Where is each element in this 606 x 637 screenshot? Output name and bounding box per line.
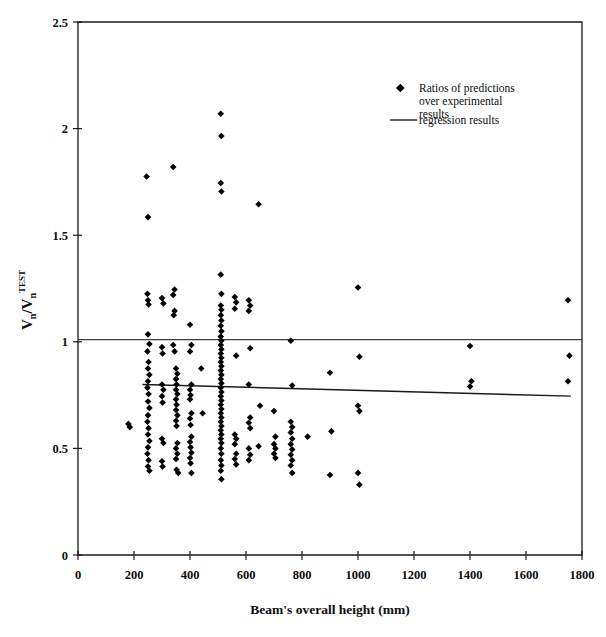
legend-label-line1: Ratios of predictions [419,82,515,95]
data-point-marker [272,433,279,440]
data-point-marker [145,431,152,438]
data-point-marker [247,425,254,432]
data-point-marker [218,450,225,457]
y-tick-label: 0 [62,549,68,563]
data-point-marker [146,438,153,445]
data-point-marker [218,188,225,195]
legend-label-line2: over experimental [419,95,502,108]
y-axis-denominator-superscript: TEST [17,270,27,293]
data-point-marker [232,441,239,448]
data-point-marker [247,302,254,309]
plot-svg: 00.511.522.5 020040060080010001200140016… [0,0,606,637]
data-point-marker [328,428,335,435]
data-point-marker [173,417,180,424]
data-point-marker [159,381,166,388]
data-point-marker [566,352,573,359]
x-tick-label: 400 [181,568,200,582]
legend-label-regression: regression results [419,114,500,127]
data-point-marker [173,401,180,408]
data-point-marker [288,429,295,436]
data-point-marker [247,345,254,352]
data-point-marker [233,299,240,306]
data-point-marker [145,412,152,419]
data-point-marker [159,463,166,470]
data-point-marker [218,291,225,298]
data-point-marker [218,323,225,330]
data-point-marker [218,328,225,335]
data-point-marker [144,291,151,298]
data-point-marker [356,408,363,415]
y-axis-numerator: V [19,319,35,330]
x-tick-label: 1000 [346,568,371,582]
data-point-marker [187,460,194,467]
data-point-marker [187,321,194,328]
data-point-marker [218,307,225,314]
data-point-marker [233,461,240,468]
data-point-marker [145,398,152,405]
data-point-marker [144,348,151,355]
data-point-marker [356,353,363,360]
data-point-marker [170,292,177,299]
data-point-marker [218,440,225,447]
y-tick-label: 2 [62,122,68,136]
data-point-marker [145,214,152,221]
data-point-marker [232,456,239,463]
data-point-marker [159,393,166,400]
data-point-marker [170,312,177,319]
data-point-marker [356,481,363,488]
data-point-marker [173,445,180,452]
data-point-marker [199,410,206,417]
data-point-marker [188,410,195,417]
data-point-marker [174,412,181,419]
data-point-marker [173,396,180,403]
data-point-marker [171,348,178,355]
data-point-marker [247,451,254,458]
data-point-marker [144,418,151,425]
data-point-marker [467,343,474,350]
x-tick-label: 1800 [570,568,595,582]
data-point-marker [187,386,194,393]
y-axis-title-text: Vn/VnTEST [17,270,38,330]
y-axis-title: Vn/VnTEST [17,270,38,330]
legend-diamond-icon [396,84,405,93]
data-point-marker [218,271,225,278]
scatter-chart-figure: 00.511.522.5 020040060080010001200140016… [0,0,606,637]
y-tick-label: 1.5 [52,229,68,243]
x-tick-label: 1400 [458,568,483,582]
data-point-marker [170,342,177,349]
data-point-marker [289,446,296,453]
data-point-marker [288,337,295,344]
data-point-marker [246,308,253,315]
data-point-marker [565,297,572,304]
data-point-marker [304,433,311,440]
x-tick-label: 1200 [402,568,427,582]
data-point-marker [218,457,225,464]
data-point-marker [159,399,166,406]
data-point-marker [187,455,194,462]
data-point-marker [145,365,152,372]
data-point-marker [246,445,253,452]
data-point-marker [173,381,180,388]
data-point-marker [187,396,194,403]
data-point-marker [145,444,152,451]
data-point-marker [246,420,253,427]
data-point-marker [187,439,194,446]
data-point-marker [289,424,296,431]
data-point-marker [159,350,166,357]
data-point-marker [146,372,153,379]
data-point-marker [174,440,181,447]
data-point-marker [159,458,166,465]
data-point-marker [188,470,195,477]
data-point-marker [355,402,362,409]
data-point-marker [288,418,295,425]
data-point-marker [188,449,195,456]
y-axis-denominator-subscript: n [27,293,38,299]
legend: Ratios of predictions over experimental … [390,82,515,127]
data-point-marker [288,462,295,469]
data-point-marker [173,456,180,463]
data-point-marker [173,365,180,372]
data-point-marker [198,365,205,372]
regression-line-group [142,384,570,396]
data-point-marker [218,180,225,187]
data-point-marker [218,312,225,319]
